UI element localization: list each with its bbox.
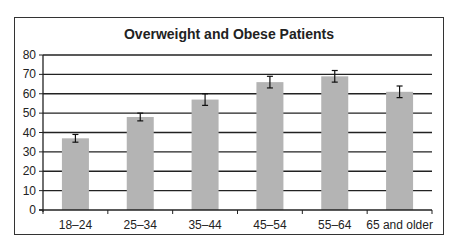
x-tick-label: 65 and older [366,218,433,232]
y-tick-label: 10 [23,184,37,198]
bar [62,138,89,210]
x-tick-label: 35–44 [188,218,222,232]
y-tick-label: 30 [23,145,37,159]
x-tick-label: 25–34 [124,218,158,232]
y-tick-label: 80 [23,48,37,62]
bar [192,100,219,210]
y-tick-label: 20 [23,164,37,178]
x-tick-label: 55–64 [318,218,352,232]
bar [127,117,154,210]
y-tick-label: 70 [23,67,37,81]
y-tick-label: 0 [29,203,36,217]
bar-chart-plot: 0102030405060708018–2425–3435–4445–5455–… [0,0,458,248]
bar [256,82,283,210]
y-tick-label: 60 [23,87,37,101]
y-tick-label: 40 [23,126,37,140]
y-tick-label: 50 [23,106,37,120]
bar [386,92,413,210]
bar [321,76,348,210]
x-tick-label: 45–54 [253,218,287,232]
x-tick-label: 18–24 [59,218,93,232]
